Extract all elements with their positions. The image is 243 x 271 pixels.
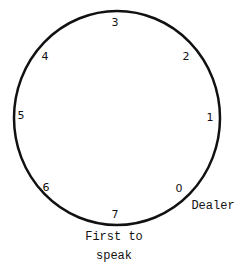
seat-6-label: 6 — [43, 182, 50, 193]
seat-7-label: 7 — [112, 209, 119, 220]
seat-4-label: 4 — [42, 51, 49, 62]
seat-2-label: 2 — [183, 51, 190, 62]
dealer-label: Dealer — [191, 200, 234, 212]
first-to-speak-line2: speak — [96, 250, 132, 262]
seat-1-label: 1 — [207, 112, 214, 123]
seat-0-label: 0 — [176, 183, 183, 194]
first-to-speak-line1: First to — [85, 231, 143, 243]
seat-5-label: 5 — [18, 110, 25, 121]
seat-3-label: 3 — [112, 17, 119, 28]
